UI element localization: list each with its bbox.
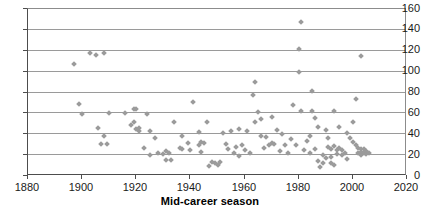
x-axis-title: Mid-career season <box>0 195 420 207</box>
y-tick-mark <box>23 133 27 134</box>
data-point <box>77 101 83 107</box>
gridline <box>28 29 405 30</box>
data-point <box>323 127 329 133</box>
data-point <box>353 96 359 102</box>
data-point <box>179 133 185 139</box>
y-tick-mark <box>23 154 27 155</box>
y-tick-mark <box>23 92 27 93</box>
data-point <box>171 119 177 125</box>
data-point <box>290 102 296 108</box>
x-tick-mark <box>81 175 82 179</box>
data-point <box>250 92 256 98</box>
data-point <box>179 146 185 152</box>
y-tick-label: 60 <box>396 107 420 118</box>
data-point <box>93 52 99 58</box>
data-point <box>345 156 351 162</box>
data-point <box>96 125 102 131</box>
data-point <box>253 79 259 85</box>
x-tick-mark <box>352 175 353 179</box>
x-tick-label: 1960 <box>224 181 264 193</box>
data-point <box>293 142 299 148</box>
y-tick-label: 160 <box>396 3 420 14</box>
data-point <box>152 136 158 142</box>
data-point <box>312 146 318 152</box>
gridline <box>28 92 405 93</box>
data-point <box>269 114 275 120</box>
y-tick-mark <box>23 50 27 51</box>
data-point <box>263 135 269 141</box>
x-tick-mark <box>298 175 299 179</box>
data-point <box>253 119 259 125</box>
data-point <box>274 127 280 133</box>
data-point <box>336 124 342 130</box>
data-point <box>301 147 307 153</box>
data-point <box>258 116 264 122</box>
x-tick-mark <box>135 175 136 179</box>
data-point <box>169 158 175 164</box>
data-point <box>201 140 207 146</box>
data-point <box>299 19 305 25</box>
x-tick-label: 1980 <box>278 181 318 193</box>
data-point <box>188 147 194 153</box>
gridline <box>28 50 405 51</box>
y-tick-mark <box>23 112 27 113</box>
data-point <box>326 136 332 142</box>
x-tick-label: 1900 <box>61 181 101 193</box>
y-tick-mark <box>23 29 27 30</box>
data-point <box>261 145 267 151</box>
x-tick-label: 2000 <box>332 181 372 193</box>
data-point <box>204 119 210 125</box>
data-point <box>277 148 283 154</box>
x-tick-mark <box>27 175 28 179</box>
x-tick-label: 2020 <box>386 181 425 193</box>
data-point <box>104 141 110 147</box>
data-point <box>190 99 196 105</box>
data-point <box>288 137 294 143</box>
gridline <box>28 71 405 72</box>
data-point <box>312 115 318 121</box>
data-point <box>350 119 356 125</box>
y-tick-label: 120 <box>396 44 420 55</box>
data-point <box>185 140 191 146</box>
x-tick-label: 1920 <box>115 181 155 193</box>
y-tick-mark <box>23 71 27 72</box>
data-point <box>225 146 231 152</box>
x-tick-mark <box>189 175 190 179</box>
data-point <box>255 109 261 115</box>
data-point <box>79 112 85 118</box>
data-point <box>144 112 150 118</box>
y-tick-label: 0 <box>396 170 420 181</box>
data-point <box>101 133 107 139</box>
data-point <box>358 53 364 59</box>
data-point <box>101 50 107 56</box>
y-tick-mark <box>23 8 27 9</box>
data-point <box>328 154 334 160</box>
data-point <box>106 111 112 117</box>
data-point <box>309 89 315 95</box>
data-point <box>331 162 337 168</box>
y-tick-label: 80 <box>396 86 420 97</box>
data-point <box>282 142 288 148</box>
x-tick-mark <box>244 175 245 179</box>
data-point <box>272 141 278 147</box>
data-point <box>236 126 242 132</box>
x-tick-mark <box>406 175 407 179</box>
plot-area <box>27 8 406 175</box>
data-point <box>147 152 153 158</box>
y-tick-label: 140 <box>396 23 420 34</box>
x-tick-label: 1880 <box>7 181 47 193</box>
x-tick-label: 1940 <box>169 181 209 193</box>
y-tick-label: 100 <box>396 65 420 76</box>
data-point <box>220 130 226 136</box>
data-point <box>142 145 148 151</box>
data-point <box>315 124 321 130</box>
data-point <box>71 61 77 67</box>
y-tick-label: 40 <box>396 128 420 139</box>
y-tick-label: 20 <box>396 149 420 160</box>
gridline <box>28 154 405 155</box>
